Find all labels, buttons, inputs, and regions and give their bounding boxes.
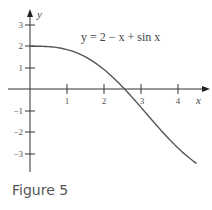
figure-caption: Figure 5 [12, 182, 68, 198]
y-axis-arrow-icon [27, 9, 33, 17]
svg-text:1: 1 [19, 63, 24, 73]
svg-text:2: 2 [102, 96, 107, 106]
svg-text:−2: −2 [13, 127, 23, 137]
x-axis-label: x [195, 94, 201, 106]
svg-text:3: 3 [19, 20, 24, 30]
svg-text:4: 4 [176, 96, 181, 106]
x-axis-arrow-icon [202, 86, 210, 92]
x-tick-labels: 1 2 3 4 [65, 96, 181, 106]
svg-text:1: 1 [65, 96, 70, 106]
equation-annotation: y = 2 − x + sin x [81, 30, 160, 44]
svg-text:−3: −3 [13, 149, 23, 159]
svg-text:−1: −1 [13, 106, 23, 116]
curve-line [30, 46, 197, 163]
chart: 1 2 3 4 x 3 2 1 −1 −2 −3 y y = 2 − x + s… [0, 0, 212, 180]
y-axis-label: y [36, 8, 42, 20]
svg-text:3: 3 [140, 96, 145, 106]
svg-text:2: 2 [19, 41, 24, 51]
